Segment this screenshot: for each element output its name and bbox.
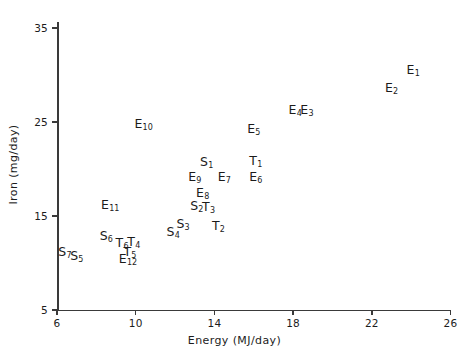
x-tick-label: 26 [436,317,466,329]
scatter-plot-figure: 5152535 61014182226 E1E2E3E4E5E6E7E8E9E1… [0,0,469,358]
data-point-index: 4 [297,109,302,118]
x-tick-label: 10 [121,317,151,329]
x-tick-mark [135,310,137,315]
x-axis-title: Energy (MJ/day) [0,334,469,347]
data-point-index: 10 [143,123,153,132]
data-point-index: 7 [66,250,71,259]
data-point-t3: T3 [202,200,215,213]
data-point-series-letter: E [289,102,297,117]
data-point-series-letter: E [407,62,415,77]
data-point-series-letter: E [218,168,226,183]
y-tick-label: 5 [22,304,48,316]
data-point-index: 9 [196,175,201,184]
data-point-series-letter: S [167,224,175,239]
data-point-index: 1 [415,69,420,78]
x-tick-label: 14 [199,317,229,329]
data-point-s6: S6 [100,229,113,242]
data-point-index: 3 [185,223,190,232]
data-point-e1: E1 [407,64,420,77]
data-point-index: 11 [109,203,119,212]
y-axis-title: Iron (mg/day) [7,105,20,225]
data-point-series-letter: T [212,218,220,233]
data-point-e4: E4 [289,104,302,117]
data-point-e10: E10 [135,118,153,131]
data-point-index: 2 [220,225,225,234]
data-point-series-letter: T [116,235,124,250]
data-point-index: 3 [210,205,215,214]
data-point-series-letter: E [249,169,257,184]
data-point-t1: T1 [249,155,262,168]
data-point-series-letter: T [202,198,210,213]
data-point-e7: E7 [218,170,231,183]
data-point-series-letter: T [249,153,257,168]
data-point-index: 5 [78,255,83,264]
data-point-index: 2 [393,87,398,96]
data-point-series-letter: E [188,168,196,183]
data-point-series-letter: E [385,80,393,95]
x-tick-label: 6 [42,317,72,329]
data-point-index: 1 [208,161,213,170]
data-point-series-letter: S [100,227,108,242]
data-point-series-letter: S [190,197,198,212]
data-point-e11: E11 [101,198,119,211]
data-point-series-letter: E [135,116,143,131]
y-tick-label: 15 [22,210,48,222]
x-axis-line [57,310,451,312]
y-tick-mark [52,215,57,217]
data-point-index: 4 [175,231,180,240]
y-tick-label: 35 [22,22,48,34]
data-point-index: 6 [108,234,113,243]
data-point-index: 6 [123,242,128,251]
x-tick-label: 22 [357,317,387,329]
data-point-s5: S5 [70,250,83,263]
data-point-t2: T2 [212,220,225,233]
data-point-index: 1 [257,160,262,169]
data-point-index: 3 [308,109,313,118]
data-point-index: 6 [257,176,262,185]
data-point-s7: S7 [58,245,71,258]
data-point-index: 5 [255,127,260,136]
data-point-e9: E9 [188,170,201,183]
y-tick-mark [52,27,57,29]
x-tick-mark [450,310,452,315]
x-tick-mark [214,310,216,315]
y-tick-label: 25 [22,116,48,128]
data-point-series-letter: S [58,243,66,258]
data-point-series-letter: E [247,120,255,135]
x-tick-label: 18 [278,317,308,329]
x-tick-mark [371,310,373,315]
data-point-series-letter: E [101,196,109,211]
data-point-index: 5 [131,250,136,259]
y-tick-mark [52,121,57,123]
data-point-e2: E2 [385,82,398,95]
x-tick-mark [292,310,294,315]
data-point-e6: E6 [249,171,262,184]
y-axis-line [57,22,59,311]
data-point-e3: E3 [300,104,313,117]
data-point-series-letter: S [200,154,208,169]
data-point-e5: E5 [247,122,260,135]
data-point-t6: T6 [116,237,129,250]
data-point-s4: S4 [167,226,180,239]
x-tick-mark [56,310,58,315]
data-point-index: 7 [226,175,231,184]
data-point-s1: S1 [200,156,213,169]
